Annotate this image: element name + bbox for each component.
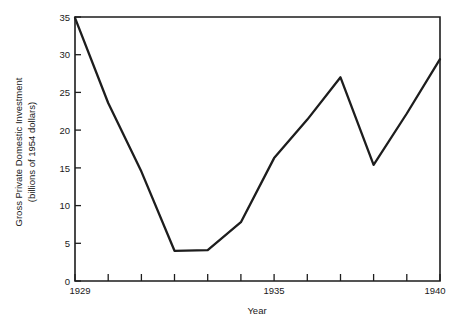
y-tick-label-15: 15 [59,163,70,174]
y-axis-title-line1: Gross Private Domestic Investment [13,77,24,226]
x-tick-label-1935: 1935 [264,285,285,296]
x-tick-label-1929: 1929 [69,285,90,296]
y-axis-title-line2: (billions of 1954 dollars) [26,102,37,202]
x-tick-label-1940: 1940 [424,285,445,296]
chart-figure: 0 5 10 15 20 25 30 35 1929 193 [0,0,461,327]
y-tick-label-5: 5 [65,238,70,249]
y-tick-label-30: 30 [59,49,70,60]
y-tick-label-10: 10 [59,200,70,211]
x-axis-title: Year [247,305,266,316]
line-chart: 0 5 10 15 20 25 30 35 1929 193 [0,0,461,327]
y-tick-label-25: 25 [59,87,70,98]
y-tick-label-35: 35 [59,12,70,23]
y-tick-label-20: 20 [59,125,70,136]
